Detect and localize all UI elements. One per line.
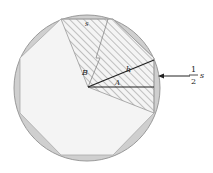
- label-top-side-s: s: [85, 20, 89, 28]
- half-side-s: s: [200, 71, 204, 80]
- half-numerator: 1: [191, 65, 196, 74]
- label-angle-A: A: [114, 79, 120, 87]
- label-h: h: [126, 65, 131, 74]
- label-angle-B: B: [81, 68, 88, 77]
- octagon-diagram: s B h A 1 2 s: [0, 0, 213, 173]
- half-denominator: 2: [191, 77, 196, 86]
